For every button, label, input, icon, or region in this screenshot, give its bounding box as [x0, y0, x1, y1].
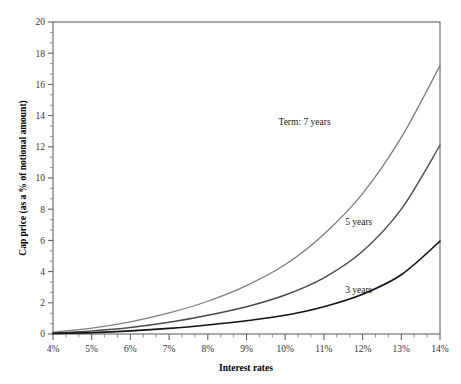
- y-tick-label: 18: [36, 49, 46, 59]
- series-curve-1: [53, 66, 440, 332]
- y-axis-ticks: [48, 22, 53, 334]
- y-tick-label: 20: [36, 17, 46, 27]
- data-series-curves: [53, 66, 440, 334]
- x-tick-label: 7%: [163, 344, 176, 354]
- series-annotations: Term: 7 years5 years3 years: [279, 117, 373, 295]
- x-tick-label: 12%: [354, 344, 372, 354]
- y-tick-label: 14: [36, 111, 46, 121]
- x-tick-label: 4%: [47, 344, 60, 354]
- series-curve-3: [53, 241, 440, 333]
- y-tick-label: 2: [40, 298, 45, 308]
- x-tick-label: 9%: [240, 344, 253, 354]
- x-tick-label: 13%: [393, 344, 411, 354]
- series-label-2: 5 years: [345, 217, 372, 227]
- series-label-1: Term: 7 years: [279, 117, 331, 127]
- series-curve-2: [53, 145, 440, 333]
- x-tick-label: 8%: [201, 344, 214, 354]
- y-tick-label: 0: [40, 329, 45, 339]
- x-tick-label: 5%: [85, 344, 98, 354]
- y-tick-label: 4: [40, 267, 45, 277]
- plot-frame: [53, 22, 440, 334]
- y-axis-title: Cap price (as a % of notional amount): [18, 100, 29, 255]
- y-tick-label: 12: [36, 142, 46, 152]
- cap-price-line-chart: 02468101214161820 4%5%6%7%8%9%10%11%12%1…: [0, 0, 461, 384]
- y-tick-label: 16: [36, 80, 46, 90]
- x-tick-label: 14%: [431, 344, 449, 354]
- x-axis-tick-labels: 4%5%6%7%8%9%10%11%12%13%14%: [47, 344, 449, 354]
- x-tick-label: 10%: [276, 344, 294, 354]
- series-label-3: 3 years: [345, 285, 372, 295]
- x-tick-label: 11%: [315, 344, 332, 354]
- y-axis-tick-labels: 02468101214161820: [36, 17, 46, 339]
- y-tick-label: 8: [40, 205, 45, 215]
- x-tick-label: 6%: [124, 344, 137, 354]
- x-axis-title: Interest rates: [219, 363, 273, 373]
- chart-figure: 02468101214161820 4%5%6%7%8%9%10%11%12%1…: [0, 0, 461, 384]
- y-tick-label: 6: [40, 236, 45, 246]
- x-axis-ticks: [53, 334, 440, 340]
- y-tick-label: 10: [36, 173, 46, 183]
